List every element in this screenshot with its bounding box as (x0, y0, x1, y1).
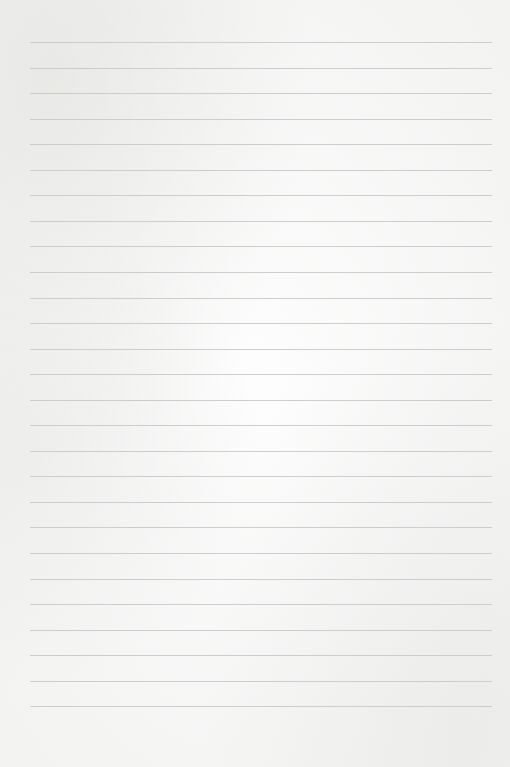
ruled-line (30, 272, 492, 273)
ruled-line (30, 349, 492, 350)
ruled-line (30, 553, 492, 554)
lined-paper-page (0, 0, 510, 767)
ruled-line (30, 604, 492, 605)
ruled-line (30, 246, 492, 247)
ruled-line (30, 451, 492, 452)
ruled-line (30, 476, 492, 477)
ruled-line (30, 630, 492, 631)
ruled-line (30, 68, 492, 69)
ruled-line (30, 655, 492, 656)
ruled-line (30, 170, 492, 171)
ruled-line (30, 400, 492, 401)
ruled-line (30, 119, 492, 120)
ruled-line (30, 706, 492, 707)
ruled-line (30, 527, 492, 528)
ruled-line (30, 221, 492, 222)
ruled-line (30, 195, 492, 196)
ruled-line (30, 425, 492, 426)
ruled-line (30, 323, 492, 324)
ruled-line (30, 502, 492, 503)
ruled-line (30, 298, 492, 299)
ruled-line (30, 144, 492, 145)
ruled-line (30, 579, 492, 580)
ruled-line (30, 93, 492, 94)
ruled-line (30, 42, 492, 43)
ruled-line (30, 681, 492, 682)
ruled-line (30, 374, 492, 375)
